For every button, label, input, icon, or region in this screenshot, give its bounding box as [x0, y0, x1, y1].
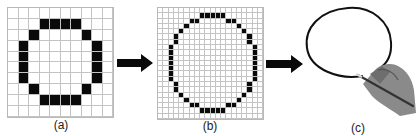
pixel-empty — [50, 8, 61, 19]
pixel-empty — [29, 19, 40, 30]
pixel-empty — [50, 30, 61, 41]
pixel-filled — [71, 95, 82, 106]
pixel-empty — [103, 8, 114, 19]
pixel-empty — [103, 30, 114, 41]
pixel-filled — [82, 30, 93, 41]
pixel-empty — [8, 73, 19, 84]
right-arrow-icon — [266, 55, 303, 73]
pixel-filled — [92, 73, 103, 84]
pixel-empty — [103, 106, 114, 117]
pixel-empty — [82, 8, 93, 19]
pixel-empty — [92, 30, 103, 41]
pixel-empty — [103, 84, 114, 95]
pixel-empty — [92, 95, 103, 106]
pixel-empty — [50, 84, 61, 95]
pixel-empty — [103, 41, 114, 52]
pixel-empty — [50, 106, 61, 117]
pixel-empty — [40, 84, 51, 95]
pixel-empty — [29, 41, 40, 52]
pixel-empty — [8, 30, 19, 41]
pixel-empty — [61, 62, 72, 73]
pixel-empty — [103, 19, 114, 30]
pixel-filled — [40, 19, 51, 30]
hand-icon — [363, 64, 416, 116]
pixel-grid-low-res — [7, 7, 114, 118]
pixel-empty — [50, 62, 61, 73]
pixel-empty — [40, 73, 51, 84]
pixel-empty — [8, 41, 19, 52]
pixel-filled — [19, 62, 30, 73]
pixel-empty — [50, 73, 61, 84]
pixel-empty — [61, 73, 72, 84]
pixel-filled — [50, 95, 61, 106]
pixel-empty — [61, 52, 72, 63]
pixel-empty — [71, 30, 82, 41]
pixel-empty — [19, 19, 30, 30]
pixel-filled — [61, 19, 72, 30]
pixel-filled — [92, 41, 103, 52]
pixel-empty — [92, 106, 103, 117]
pixel-empty — [19, 84, 30, 95]
pixel-empty — [71, 62, 82, 73]
pixel-filled — [29, 30, 40, 41]
pixel-empty — [40, 52, 51, 63]
pixel-empty — [8, 106, 19, 117]
pixel-filled — [92, 52, 103, 63]
pixel-empty — [61, 106, 72, 117]
pixel-filled — [61, 95, 72, 106]
pixel-grid-high-res — [157, 7, 264, 120]
pixel-filled — [82, 84, 93, 95]
pixel-empty — [61, 41, 72, 52]
pixel-filled — [19, 41, 30, 52]
pixel-empty — [19, 30, 30, 41]
pixel-empty — [19, 95, 30, 106]
hand-drawn-circle-illustration — [300, 0, 417, 120]
pixel-empty — [82, 73, 93, 84]
pixel-empty — [8, 52, 19, 63]
pixel-empty — [8, 84, 19, 95]
pixel-empty — [92, 84, 103, 95]
pixel-empty — [29, 95, 40, 106]
pixel-empty — [29, 106, 40, 117]
pixel-empty — [40, 62, 51, 73]
pixel-empty — [103, 73, 114, 84]
pixel-empty — [71, 73, 82, 84]
pixel-empty — [82, 62, 93, 73]
pixel-empty — [50, 52, 61, 63]
pixel-empty — [8, 19, 19, 30]
pixel-empty — [92, 8, 103, 19]
pixel-filled — [92, 62, 103, 73]
pixel-empty — [82, 52, 93, 63]
pixel-empty — [29, 52, 40, 63]
pixel-empty — [258, 114, 263, 119]
pixel-filled — [29, 84, 40, 95]
pixel-empty — [8, 8, 19, 19]
pixel-filled — [40, 95, 51, 106]
drawn-circle-stroke — [307, 8, 391, 77]
right-arrow-icon — [117, 54, 153, 72]
panel-label-c: (c) — [338, 121, 378, 135]
pixel-empty — [8, 62, 19, 73]
pixel-empty — [103, 52, 114, 63]
pixel-empty — [50, 41, 61, 52]
pixel-empty — [29, 73, 40, 84]
pixel-empty — [40, 41, 51, 52]
pixel-empty — [92, 19, 103, 30]
pixel-filled — [19, 52, 30, 63]
pixel-empty — [40, 8, 51, 19]
pixel-empty — [29, 8, 40, 19]
pixel-empty — [29, 62, 40, 73]
pixel-empty — [103, 62, 114, 73]
pixel-empty — [40, 30, 51, 41]
pixel-empty — [71, 8, 82, 19]
pixel-empty — [61, 8, 72, 19]
panel-label-a: (a) — [41, 118, 81, 132]
pixel-empty — [71, 41, 82, 52]
pixel-empty — [71, 52, 82, 63]
panel-label-b: (b) — [190, 119, 230, 133]
pixel-filled — [71, 19, 82, 30]
pixel-empty — [103, 95, 114, 106]
pixel-empty — [82, 41, 93, 52]
pixel-empty — [19, 106, 30, 117]
pixel-empty — [61, 84, 72, 95]
